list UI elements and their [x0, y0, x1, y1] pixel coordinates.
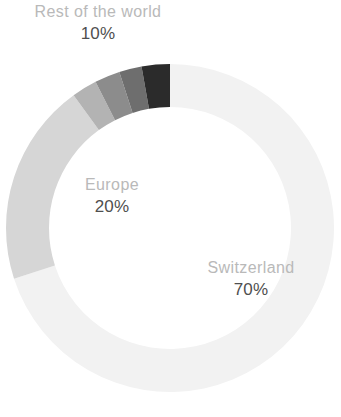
slice-label-name-europe: Europe: [52, 176, 172, 195]
slice-label-rest-of-the-world: Rest of the world 10%: [8, 3, 188, 44]
donut-slice-group: [6, 64, 334, 392]
slice-label-value-switzerland: 70%: [176, 280, 326, 300]
slice-label-europe: Europe 20%: [52, 176, 172, 217]
slice-label-name-rest-of-the-world: Rest of the world: [8, 3, 188, 22]
slice-label-value-rest-of-the-world: 10%: [8, 24, 188, 44]
slice-label-name-switzerland: Switzerland: [176, 259, 326, 278]
slice-label-value-europe: 20%: [52, 197, 172, 217]
slice-label-switzerland: Switzerland 70%: [176, 259, 326, 300]
donut-chart-page: Rest of the world 10% Europe 20% Switzer…: [0, 0, 341, 417]
